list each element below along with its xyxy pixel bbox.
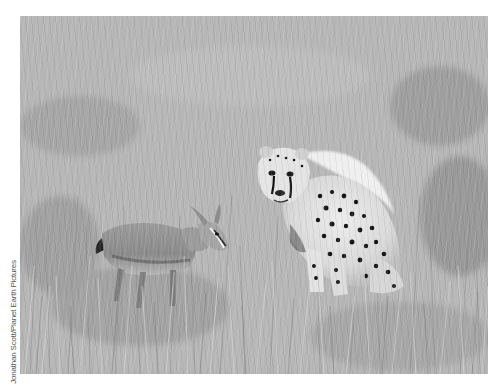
photo-scene [20,16,488,374]
wildlife-photo [20,16,488,374]
background-grass [20,16,488,374]
photo-credit: Jonathan Scott/Planet Earth Pictures [9,260,18,384]
page: Jonathan Scott/Planet Earth Pictures [0,0,501,387]
